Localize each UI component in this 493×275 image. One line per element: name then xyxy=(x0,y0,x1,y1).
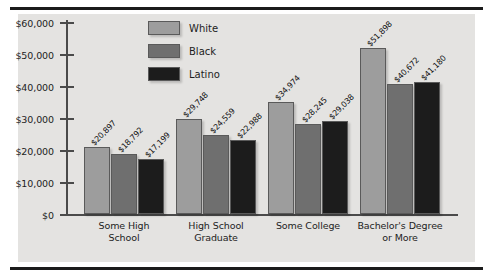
bar: $29,038 xyxy=(322,121,348,214)
bar: $20,897 xyxy=(84,147,110,214)
bar-value-label: $17,199 xyxy=(143,131,172,160)
category-label-line: or More xyxy=(338,232,462,244)
bar-value-label: $41,180 xyxy=(419,54,448,83)
bar-value-label: $34,974 xyxy=(273,74,302,103)
bar-value-label: $20,897 xyxy=(89,119,118,148)
legend-item-latino: Latino xyxy=(148,64,220,84)
bar: $34,974 xyxy=(268,102,294,214)
y-axis-tick-label: $30,000 xyxy=(15,113,54,124)
bar-value-label: $29,748 xyxy=(181,90,210,119)
bar: $40,672 xyxy=(387,84,413,214)
category-label-line: Graduate xyxy=(154,232,278,244)
legend-label-black: Black xyxy=(189,46,216,57)
bar: $29,748 xyxy=(176,119,202,214)
category-label-line: Bachelor's Degree xyxy=(338,220,462,232)
bar: $51,898 xyxy=(360,48,386,214)
bottom-rule xyxy=(10,267,483,270)
legend-label-white: White xyxy=(189,23,218,34)
legend-item-white: White xyxy=(148,18,220,38)
y-axis-tick-label: $10,000 xyxy=(15,177,54,188)
bar: $24,559 xyxy=(203,135,229,214)
legend-swatch-white-icon xyxy=(148,21,180,35)
legend-item-black: Black xyxy=(148,41,220,61)
top-rule xyxy=(10,7,483,10)
legend-swatch-black-icon xyxy=(148,44,180,58)
legend: White Black Latino xyxy=(148,18,220,87)
bar-group: $34,974$28,245$29,038 xyxy=(268,22,348,214)
legend-label-latino: Latino xyxy=(189,69,220,80)
bar: $18,792 xyxy=(111,154,137,214)
bar-value-label: $24,559 xyxy=(208,107,237,136)
chart-figure: $0$10,000$20,000$30,000$40,000$50,000$60… xyxy=(0,0,493,275)
x-axis-line xyxy=(66,214,458,216)
y-axis-tick-label: $40,000 xyxy=(15,81,54,92)
x-axis-category-label: Bachelor's Degreeor More xyxy=(338,220,462,243)
y-axis-tick-label: $50,000 xyxy=(15,49,54,60)
bar-group: $51,898$40,672$41,180 xyxy=(360,22,440,214)
bar: $41,180 xyxy=(414,82,440,214)
bar-value-label: $22,988 xyxy=(235,112,264,141)
bar-value-label: $18,792 xyxy=(116,126,145,155)
y-axis-tick-label: $60,000 xyxy=(15,17,54,28)
bar-value-label: $28,245 xyxy=(300,95,329,124)
y-axis-tick-label: $0 xyxy=(42,209,54,220)
bar-value-label: $29,038 xyxy=(327,93,356,122)
bar: $28,245 xyxy=(295,124,321,214)
bar-value-label: $40,672 xyxy=(392,56,421,85)
plot-area: $20,897$18,792$17,199$29,748$24,559$22,9… xyxy=(66,22,456,214)
y-axis-tick-label: $20,000 xyxy=(15,145,54,156)
legend-swatch-latino-icon xyxy=(148,67,180,81)
y-axis-tick: $0 xyxy=(60,214,74,216)
bar: $17,199 xyxy=(138,159,164,214)
bar-value-label: $51,898 xyxy=(365,20,394,49)
bar: $22,988 xyxy=(230,140,256,214)
